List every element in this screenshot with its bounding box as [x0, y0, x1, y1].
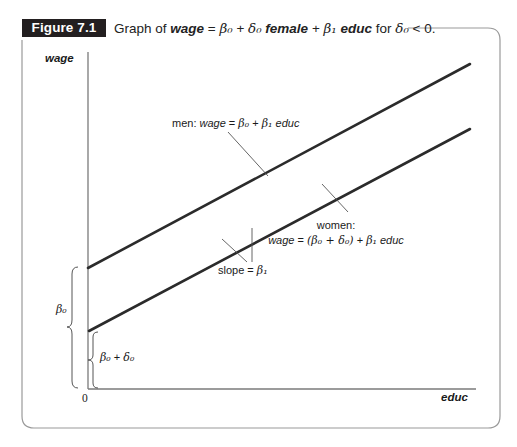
- women-plus: +: [354, 234, 367, 246]
- men-intercept-label: β₀: [56, 303, 67, 316]
- women-line-annotation: women: wage = (β₀ + δ₀) + β₁ educ: [268, 218, 404, 248]
- figure-number-badge: Figure 7.1: [22, 19, 106, 37]
- origin-label: 0: [82, 392, 88, 404]
- women-equals: =: [294, 234, 307, 246]
- men-beta1: β₁: [262, 117, 273, 130]
- women-equation: wage = (β₀ + δ₀) + β₁ educ: [268, 233, 404, 248]
- y-axis-label: wage: [45, 52, 74, 64]
- caption-beta0: β₀: [219, 20, 232, 36]
- caption-for: for: [372, 21, 395, 36]
- women-leader-line: [322, 184, 348, 212]
- women-intercept-delta0: δ₀: [123, 351, 134, 364]
- women-heading: women:: [268, 218, 404, 233]
- beta0-delta0-brace: [88, 332, 98, 388]
- figure-border: [22, 28, 500, 428]
- caption-beta1: β₁: [324, 20, 337, 36]
- women-educ: educ: [377, 234, 404, 246]
- slope-beta1: β₁: [257, 264, 268, 277]
- men-educ: educ: [272, 117, 299, 129]
- caption-female: female: [262, 21, 309, 36]
- women-intercept-beta0: β₀: [100, 351, 111, 364]
- beta0-brace: [67, 267, 78, 388]
- slope-prefix: slope =: [218, 264, 257, 276]
- caption-plus-2: +: [308, 21, 323, 36]
- figure-container: Figure 7.1 Graph of wage = β₀ + δ₀ femal…: [0, 0, 517, 447]
- women-group: (β₀ + δ₀): [307, 234, 354, 247]
- figure-caption: Graph of wage = β₀ + δ₀ female + β₁ educ…: [114, 20, 435, 37]
- x-axis-label: educ: [441, 391, 468, 403]
- women-intercept-label: β₀ + δ₀: [100, 351, 134, 364]
- men-equals: =: [226, 117, 239, 129]
- caption-delta0-b: δ₀: [395, 20, 409, 36]
- caption-delta0: δ₀: [248, 20, 262, 36]
- caption-wage: wage: [170, 21, 204, 36]
- men-line-annotation: men: wage = β₀ + β₁ educ: [172, 117, 299, 130]
- caption-equals: =: [204, 21, 219, 36]
- caption-educ: educ: [337, 21, 372, 36]
- caption-plus-1: +: [233, 21, 248, 36]
- figure-number-label: Figure 7.1: [32, 21, 97, 35]
- caption-condition: < 0.: [409, 21, 436, 36]
- men-leader-line: [228, 132, 268, 176]
- men-wage: wage: [200, 117, 226, 129]
- men-plus: +: [249, 117, 262, 129]
- women-wage: wage: [268, 234, 294, 246]
- women-intercept-plus: +: [111, 351, 124, 363]
- men-prefix: men:: [172, 117, 200, 129]
- slope-annotation: slope = β₁: [218, 264, 268, 277]
- figure-graphic: [0, 0, 517, 447]
- caption-lead: Graph of: [114, 21, 170, 36]
- men-beta0: β₀: [238, 117, 249, 130]
- women-beta1: β₁: [366, 234, 377, 247]
